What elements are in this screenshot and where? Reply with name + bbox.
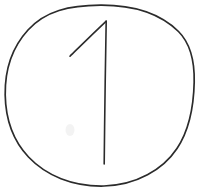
sketch-canvas [0,0,202,193]
sketch-drawing [0,0,202,193]
paper-background [0,0,202,193]
paper-smudge-mark [66,124,75,136]
